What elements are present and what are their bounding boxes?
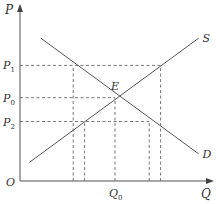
curve-label-d: D	[202, 148, 212, 161]
y-axis-arrow	[17, 4, 23, 12]
guide-lines	[20, 65, 161, 181]
origin-label: O	[6, 176, 15, 189]
quantity-tick-label: Q0	[109, 187, 123, 202]
price-tick-label: P2	[2, 116, 15, 131]
x-axis-label: Q	[201, 187, 211, 201]
curves	[30, 38, 199, 162]
curve-s	[30, 38, 199, 162]
price-tick-label: P0	[2, 92, 15, 107]
equilibrium-label: E	[110, 80, 119, 93]
supply-demand-chart: P Q O SDEP1P0P2Q0	[0, 0, 216, 204]
y-axis-label: P	[4, 3, 14, 17]
axes: P Q O	[4, 3, 214, 201]
x-axis-arrow	[206, 178, 214, 184]
curve-label-s: S	[203, 32, 211, 45]
labels: SDEP1P0P2Q0	[2, 32, 212, 202]
price-tick-label: P1	[2, 59, 15, 74]
